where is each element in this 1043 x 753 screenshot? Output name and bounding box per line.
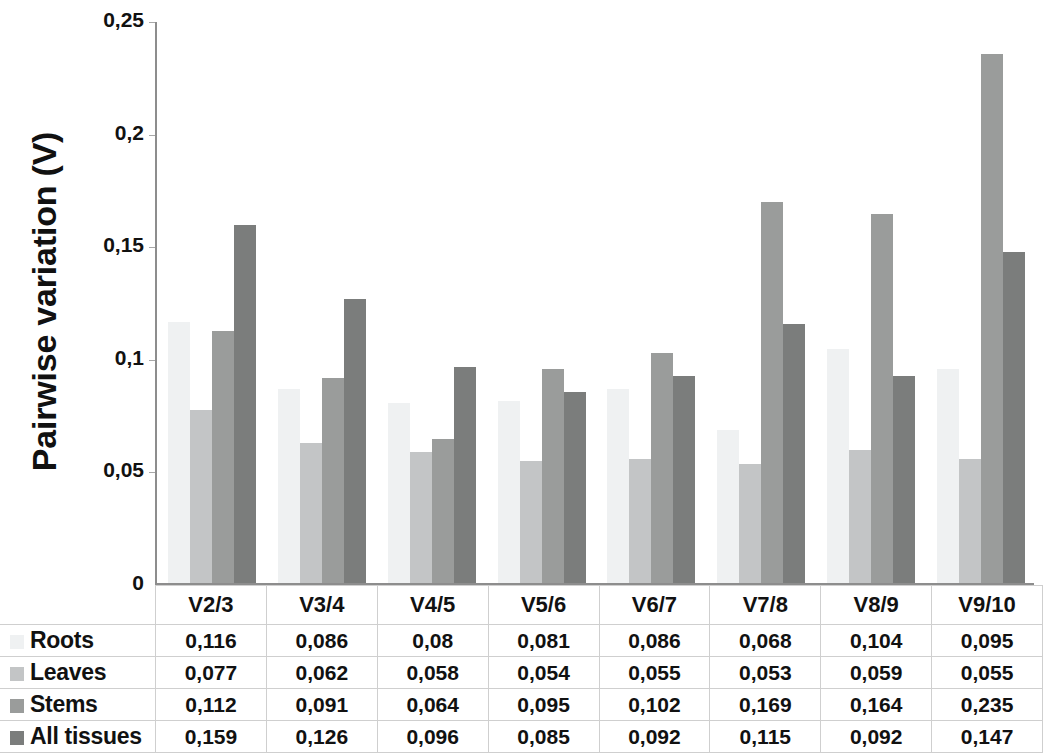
table-cell-value: 0,055 <box>599 657 710 689</box>
table-cell-value: 0,095 <box>932 625 1043 657</box>
legend-label: All tissues <box>30 723 142 749</box>
table-corner-cell <box>0 586 156 625</box>
table-cell-value: 0,096 <box>377 721 488 753</box>
table-column-header: V3/4 <box>266 586 377 625</box>
legend-label: Roots <box>30 627 94 653</box>
table-cell-value: 0,116 <box>156 625 267 657</box>
plot-area <box>155 22 1034 585</box>
table-cell-value: 0,085 <box>488 721 599 753</box>
table-cell-value: 0,064 <box>377 689 488 721</box>
table-column-header: V8/9 <box>821 586 932 625</box>
table-cell-value: 0,059 <box>821 657 932 689</box>
table-row: All tissues0,1590,1260,0960,0850,0920,11… <box>0 721 1043 753</box>
bar <box>783 324 805 583</box>
legend-swatch-icon <box>10 635 24 649</box>
y-axis-title: Pairwise variation (V) <box>25 22 64 582</box>
bar-group <box>816 22 926 583</box>
bar <box>959 459 981 583</box>
table-cell-value: 0,068 <box>710 625 821 657</box>
table-cell-value: 0,055 <box>932 657 1043 689</box>
table-cell-value: 0,091 <box>266 689 377 721</box>
table-row: Stems0,1120,0910,0640,0950,1020,1690,164… <box>0 689 1043 721</box>
table-cell-value: 0,077 <box>156 657 267 689</box>
table-column-header: V6/7 <box>599 586 710 625</box>
table-cell-value: 0,095 <box>488 689 599 721</box>
bar <box>607 389 629 583</box>
table-cell-value: 0,081 <box>488 625 599 657</box>
table-column-header: V5/6 <box>488 586 599 625</box>
y-tick-label: 0,15 <box>58 233 144 257</box>
table-cell-value: 0,164 <box>821 689 932 721</box>
bar-group <box>377 22 487 583</box>
bar <box>520 461 542 583</box>
y-tick-label: 0,2 <box>58 121 144 145</box>
table-cell-value: 0,169 <box>710 689 821 721</box>
bar <box>673 376 695 583</box>
bar <box>542 369 564 583</box>
bar <box>344 299 366 583</box>
table-cell-value: 0,062 <box>266 657 377 689</box>
bar-group <box>487 22 597 583</box>
y-tick-label: 0,1 <box>58 346 144 370</box>
bar <box>564 392 586 583</box>
bar <box>454 367 476 583</box>
bar <box>893 376 915 583</box>
bar <box>410 452 432 583</box>
table-row: Leaves0,0770,0620,0580,0540,0550,0530,05… <box>0 657 1043 689</box>
legend-entry: Leaves <box>0 657 156 689</box>
table-cell-value: 0,104 <box>821 625 932 657</box>
legend-swatch-icon <box>10 731 24 745</box>
bar <box>981 54 1003 583</box>
bar <box>432 439 454 583</box>
bar <box>629 459 651 583</box>
legend-entry: Roots <box>0 625 156 657</box>
bar <box>871 214 893 583</box>
legend-swatch-icon <box>10 667 24 681</box>
bar-group <box>267 22 377 583</box>
table-body: Roots0,1160,0860,080,0810,0860,0680,1040… <box>0 625 1043 753</box>
y-tick-label: 0,25 <box>58 8 144 32</box>
table-cell-value: 0,054 <box>488 657 599 689</box>
table-cell-value: 0,115 <box>710 721 821 753</box>
y-tick-label: 0,05 <box>58 458 144 482</box>
bar <box>234 225 256 583</box>
bar <box>278 389 300 583</box>
bar-group <box>157 22 267 583</box>
bar <box>739 464 761 583</box>
bar <box>1003 252 1025 583</box>
table-column-header: V2/3 <box>156 586 267 625</box>
bar-group <box>926 22 1036 583</box>
bar-group <box>597 22 707 583</box>
bar <box>937 369 959 583</box>
bar <box>388 403 410 583</box>
table-cell-value: 0,092 <box>599 721 710 753</box>
table-cell-value: 0,235 <box>932 689 1043 721</box>
table-cell-value: 0,102 <box>599 689 710 721</box>
bar <box>212 331 234 583</box>
table-cell-value: 0,058 <box>377 657 488 689</box>
bar <box>651 353 673 583</box>
bar <box>827 349 849 583</box>
bar <box>717 430 739 583</box>
table-row: Roots0,1160,0860,080,0810,0860,0680,1040… <box>0 625 1043 657</box>
table-cell-value: 0,086 <box>266 625 377 657</box>
table-header-row: V2/3V3/4V4/5V5/6V6/7V7/8V8/9V9/10 <box>0 586 1043 625</box>
table-column-header: V7/8 <box>710 586 821 625</box>
table-cell-value: 0,08 <box>377 625 488 657</box>
table-column-header: V9/10 <box>932 586 1043 625</box>
table-cell-value: 0,126 <box>266 721 377 753</box>
legend-label: Leaves <box>30 659 106 685</box>
bars-container <box>157 22 1034 583</box>
table-column-header: V4/5 <box>377 586 488 625</box>
bar-group <box>706 22 816 583</box>
legend-entry: All tissues <box>0 721 156 753</box>
legend-label: Stems <box>30 691 98 717</box>
bar <box>190 410 212 583</box>
table-header: V2/3V3/4V4/5V5/6V6/7V7/8V8/9V9/10 <box>0 586 1043 625</box>
table-cell-value: 0,147 <box>932 721 1043 753</box>
bar <box>168 322 190 583</box>
table-cell-value: 0,159 <box>156 721 267 753</box>
bar <box>761 202 783 583</box>
bar <box>849 450 871 583</box>
